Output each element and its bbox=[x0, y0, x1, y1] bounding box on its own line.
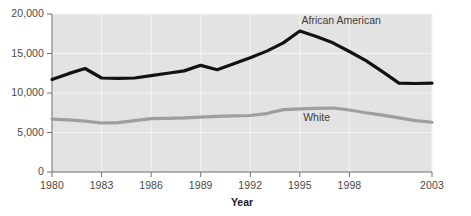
x-axis-tick-label: 1998 bbox=[319, 179, 379, 191]
x-axis-tick-label: 2003 bbox=[402, 179, 462, 191]
series-label-white: White bbox=[303, 111, 330, 123]
line-chart: 05,00010,00015,00020,000 198019831986198… bbox=[0, 0, 471, 216]
y-axis-tick-label: 15,000 bbox=[11, 47, 44, 59]
y-axis-tick-label: 20,000 bbox=[11, 7, 44, 19]
y-axis-tick-label: 5,000 bbox=[17, 126, 44, 138]
y-axis-tick-label: 0 bbox=[38, 165, 44, 177]
y-axis-tick-label: 10,000 bbox=[11, 86, 44, 98]
x-axis-title: Year bbox=[212, 196, 272, 208]
series-label-african-american: African American bbox=[301, 14, 380, 26]
